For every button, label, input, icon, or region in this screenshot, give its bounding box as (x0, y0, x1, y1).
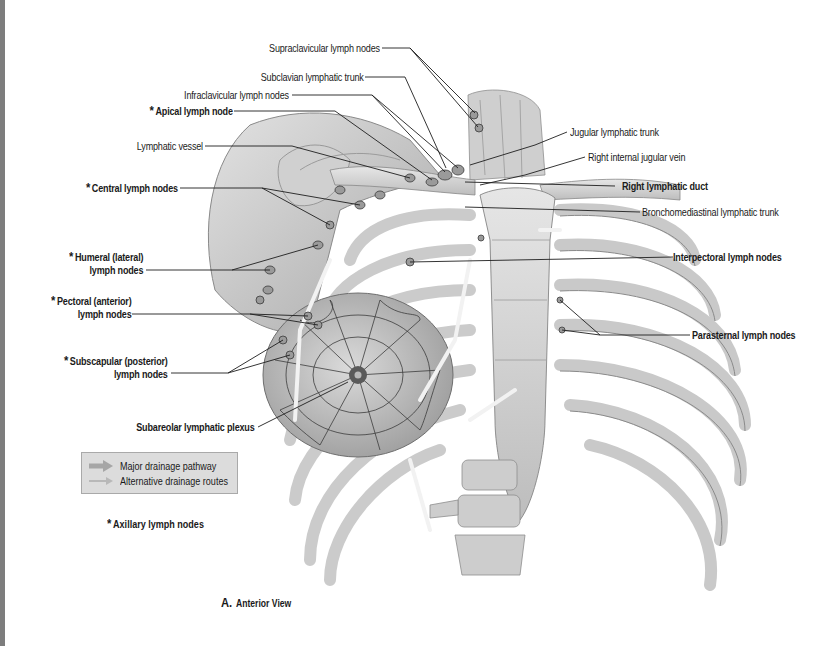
label-pectoral-lymph-nodes: *Pectoral (anterior)lymph nodes (51, 294, 131, 321)
legend-box: Major drainage pathway Alternative drain… (81, 452, 238, 494)
legend-item-alternative: Alternative drainage routes (88, 474, 246, 487)
asterisk-icon: * (69, 249, 73, 264)
label-right-internal-jugular-vein: Right internal jugular vein (588, 151, 685, 164)
asterisk-icon: * (107, 516, 111, 531)
thick-arrow-icon (88, 460, 114, 472)
label-lymphatic-vessel: Lymphatic vessel (137, 140, 203, 153)
label-parasternal-lymph-nodes: Parasternal lymph nodes (692, 329, 795, 342)
label-right-lymphatic-duct: Right lymphatic duct (622, 180, 708, 193)
label-infraclavicular-lymph-nodes: Infraclavicular lymph nodes (184, 89, 289, 102)
label-interpectoral-lymph-nodes: Interpectoral lymph nodes (673, 251, 782, 264)
thin-arrow-icon (88, 475, 114, 487)
figure-letter: A. (221, 595, 232, 610)
label-humeral-lymph-nodes: *Humeral (lateral)lymph nodes (69, 250, 143, 277)
axillary-footnote: *Axillary lymph nodes (107, 516, 204, 531)
ribcage-left-side (560, 209, 745, 585)
figure-caption: A. Anterior View (221, 593, 291, 611)
label-subscapular-lymph-nodes: *Subscapular (posterior)lymph nodes (64, 354, 168, 381)
anatomy-illustration (0, 0, 833, 646)
asterisk-icon: * (150, 103, 154, 118)
label-supraclavicular-lymph-nodes: Supraclavicular lymph nodes (269, 42, 380, 55)
asterisk-icon: * (86, 180, 90, 195)
label-central-lymph-nodes: *Central lymph nodes (86, 181, 178, 195)
asterisk-icon: * (64, 353, 68, 368)
spine (430, 460, 525, 575)
figure-view-name: Anterior View (236, 598, 291, 609)
label-apical-lymph-node: *Apical lymph node (150, 104, 233, 118)
legend-item-major: Major drainage pathway (88, 459, 232, 472)
breast-plexus (263, 293, 453, 457)
label-bronchomediastinal-lymphatic-trunk: Bronchomediastinal lymphatic trunk (642, 206, 779, 219)
neck (468, 90, 545, 180)
label-subareolar-lymphatic-plexus: Subareolar lymphatic plexus (137, 421, 255, 434)
label-subclavian-lymphatic-trunk: Subclavian lymphatic trunk (261, 71, 364, 84)
label-jugular-lymphatic-trunk: Jugular lymphatic trunk (570, 126, 659, 139)
asterisk-icon: * (51, 293, 55, 308)
